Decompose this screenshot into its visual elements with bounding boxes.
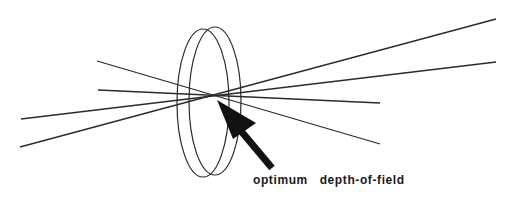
ray-2	[98, 90, 380, 103]
ray-4	[20, 19, 496, 147]
ray-3	[21, 62, 496, 119]
light-rays	[20, 19, 496, 147]
optimum-depth-of-field-label: optimum depth-of-field	[253, 173, 405, 187]
optics-diagram	[0, 0, 513, 200]
